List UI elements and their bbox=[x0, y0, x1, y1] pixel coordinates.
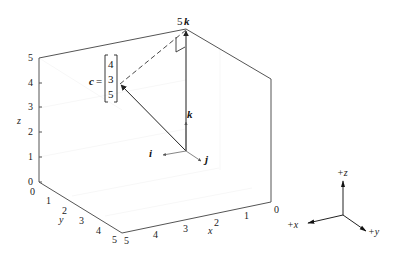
x-tick-4: 4 bbox=[153, 229, 158, 240]
x-tick-1: 1 bbox=[244, 210, 249, 221]
y-axis-label: y bbox=[58, 214, 64, 225]
c-component-z: 5 bbox=[108, 88, 114, 100]
z-tick-1: 1 bbox=[28, 151, 33, 162]
label-j: j bbox=[203, 153, 209, 165]
vector-c bbox=[121, 85, 186, 151]
triad-y-label: +y bbox=[368, 226, 380, 237]
z-tick-2: 2 bbox=[28, 126, 33, 137]
triad-z-label: +z bbox=[337, 167, 348, 178]
triad-y-arrow bbox=[343, 215, 366, 231]
axes-frame bbox=[39, 29, 271, 233]
x-tick-5: 5 bbox=[124, 235, 129, 246]
triad-x-label: +x bbox=[287, 219, 299, 230]
x-axis-ticks: 5 4 3 2 1 0 x bbox=[124, 204, 279, 246]
label-5k-coef: 5 bbox=[177, 15, 183, 27]
label-c-equals: = bbox=[96, 75, 102, 87]
z-tick-3: 3 bbox=[28, 101, 33, 112]
x-tick-0: 0 bbox=[274, 204, 279, 215]
label-5k: k bbox=[184, 15, 190, 27]
triad-x-arrow bbox=[308, 215, 343, 223]
right-angle-marker bbox=[176, 37, 185, 52]
vector-j bbox=[186, 151, 201, 161]
c-component-y: 3 bbox=[108, 73, 114, 85]
y-tick-5: 5 bbox=[112, 234, 117, 245]
label-k: k bbox=[187, 108, 193, 120]
label-i: i bbox=[149, 147, 153, 159]
grid-lines bbox=[39, 29, 252, 216]
right-bracket bbox=[114, 55, 117, 102]
y-tick-1: 1 bbox=[46, 195, 51, 206]
vector-diagram: 0 1 2 3 4 5 z 0 1 2 3 4 5 y 5 4 3 2 1 0 … bbox=[0, 0, 400, 260]
c-component-x: 4 bbox=[108, 58, 114, 70]
x-tick-2: 2 bbox=[214, 217, 219, 228]
x-tick-3: 3 bbox=[183, 223, 188, 234]
z-tick-4: 4 bbox=[28, 77, 33, 88]
z-axis-ticks: 0 1 2 3 4 5 z bbox=[16, 52, 42, 187]
vector-i bbox=[163, 151, 186, 155]
y-tick-0: 0 bbox=[30, 186, 35, 197]
y-tick-3: 3 bbox=[79, 215, 84, 226]
z-axis-label: z bbox=[16, 115, 21, 126]
x-axis-label: x bbox=[207, 225, 213, 236]
y-tick-4: 4 bbox=[96, 225, 101, 236]
c-vector-equation: c = 4 3 5 bbox=[89, 55, 117, 102]
label-c: c bbox=[89, 75, 94, 87]
orientation-triad: +z +x +y bbox=[287, 167, 380, 237]
y-axis-ticks: 0 1 2 3 4 5 y bbox=[30, 186, 117, 245]
z-tick-5: 5 bbox=[28, 52, 33, 63]
